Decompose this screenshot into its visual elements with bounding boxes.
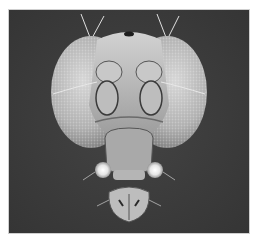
palp-right (147, 162, 163, 178)
ocellus (124, 32, 134, 37)
fly-head-micrograph (9, 10, 249, 233)
palp-left (95, 162, 111, 178)
micrograph-frame (8, 9, 250, 234)
